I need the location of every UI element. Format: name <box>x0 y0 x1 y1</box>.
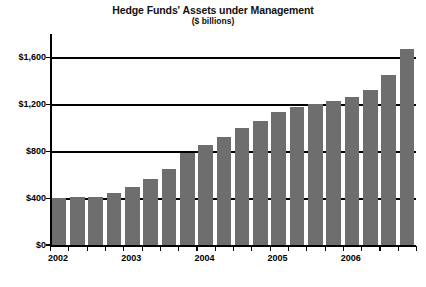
bar <box>235 128 250 246</box>
x-tick-mark <box>233 246 234 251</box>
x-tick-mark <box>160 246 161 251</box>
y-tick-mark <box>46 151 50 152</box>
x-tick-label: 2003 <box>121 253 141 264</box>
bar <box>217 137 232 246</box>
bar <box>52 198 67 246</box>
bar <box>308 104 323 246</box>
y-tick-mark <box>46 57 50 58</box>
y-tick-label: $1,600 <box>2 53 46 62</box>
bar <box>88 197 103 246</box>
bar <box>125 187 140 246</box>
bar <box>290 107 305 246</box>
bar <box>162 169 177 246</box>
bar <box>107 193 122 246</box>
bar <box>253 121 268 246</box>
x-tick-label: 2005 <box>268 253 288 264</box>
bar <box>326 101 341 246</box>
y-tick-mark <box>46 104 50 105</box>
plot-inner <box>50 34 416 246</box>
x-tick-mark <box>325 246 326 251</box>
x-tick-mark <box>288 246 289 251</box>
x-tick-label: 2006 <box>341 253 361 264</box>
x-tick-mark <box>361 246 362 251</box>
gridline-400 <box>50 198 416 200</box>
bar <box>381 75 396 246</box>
plot-area <box>50 34 416 246</box>
gridline-800 <box>50 151 416 153</box>
x-tick-mark <box>105 246 106 251</box>
x-tick-label: 2004 <box>194 253 214 264</box>
gridline-1600 <box>50 57 416 59</box>
x-tick-mark <box>123 246 124 251</box>
x-tick-label: 2002 <box>48 253 68 264</box>
x-tick-mark <box>87 246 88 251</box>
page-title: Hedge Funds' Assets under Management <box>0 4 426 16</box>
x-tick-mark <box>251 246 252 251</box>
x-tick-mark <box>215 246 216 251</box>
bar <box>271 112 286 246</box>
x-tick-mark <box>379 246 380 251</box>
cropped-source-note <box>0 283 426 287</box>
y-tick-label: $400 <box>2 194 46 203</box>
x-tick-mark <box>178 246 179 251</box>
x-tick-mark <box>50 246 51 251</box>
y-axis-spine <box>50 34 52 246</box>
bar <box>198 145 213 246</box>
x-tick-mark <box>142 246 143 251</box>
bar <box>345 97 360 246</box>
gridline-1200 <box>50 104 416 106</box>
x-tick-mark <box>270 246 271 251</box>
bar <box>400 49 415 246</box>
cropped-source-note-text <box>0 283 426 287</box>
x-tick-mark <box>416 246 417 251</box>
chart-subtitle: ($ billions) <box>0 16 426 27</box>
chart-figure: Hedge Funds' Assets under Management ($ … <box>0 0 426 287</box>
y-tick-label: $1,200 <box>2 100 46 109</box>
x-tick-mark <box>306 246 307 251</box>
x-tick-mark <box>196 246 197 251</box>
x-tick-mark <box>343 246 344 251</box>
bar <box>180 153 195 246</box>
x-tick-mark <box>68 246 69 251</box>
y-tick-mark <box>46 198 50 199</box>
bar <box>143 179 158 246</box>
chart-title-block: Hedge Funds' Assets under Management ($ … <box>0 4 426 27</box>
bar <box>70 197 85 246</box>
x-tick-mark <box>398 246 399 251</box>
bar <box>363 90 378 246</box>
y-tick-label: $800 <box>2 147 46 156</box>
y-tick-label: $0 <box>2 241 46 250</box>
